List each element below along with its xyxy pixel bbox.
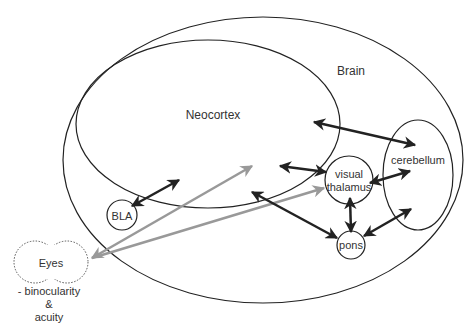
neocortex-pons-arrow — [252, 192, 337, 238]
visual-thalamus-label-line2: thalamus — [327, 181, 372, 193]
neocortex-outline — [76, 40, 340, 208]
visual-thalamus-label-line1: visual — [335, 168, 363, 180]
pons-cerebellum-arrow — [364, 209, 411, 236]
neocortex-cerebellum-arrow — [314, 122, 415, 145]
bla-neocortex-arrow — [132, 180, 179, 206]
brain-label: Brain — [337, 65, 365, 78]
thalamus-pons-arrow — [350, 198, 351, 232]
eyes-note-line3: acuity — [35, 311, 64, 323]
neocortex-label: Neocortex — [186, 109, 241, 122]
pons-label: pons — [339, 239, 363, 251]
thalamus-cerebellum-arrow — [370, 171, 410, 183]
bla-label: BLA — [112, 210, 133, 222]
cerebellum-label: cerebellum — [391, 154, 445, 166]
eyes-note-line1: - binocularity — [18, 285, 80, 297]
eyes-note-line2: & — [45, 298, 52, 310]
eyes-label: Eyes — [39, 257, 63, 269]
